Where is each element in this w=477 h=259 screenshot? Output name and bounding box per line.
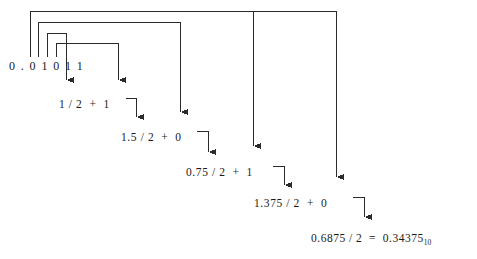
- binary-input-value: 0 . 0 1 0 1 1: [9, 60, 84, 73]
- final-result-radix-subscript: 10: [424, 238, 432, 247]
- connector-digit1-to-step4: [31, 12, 337, 178]
- elbow-step1-to-step2: [126, 98, 137, 117]
- elbow-step2-to-step3: [197, 131, 209, 152]
- elbow-step3-to-step4: [273, 166, 285, 185]
- connector-wire-layer: [0, 0, 477, 259]
- connector-digit2-to-step3: [31, 12, 254, 147]
- step-3-expression: 0.75 / 2 + 1: [186, 166, 253, 179]
- final-result-expression: 0.6875 / 2 = 0.3437510: [311, 232, 431, 249]
- binary-conversion-diagram: 0 . 0 1 0 1 1 1 / 2 + 1 1.5 / 2 + 0 0.75…: [0, 0, 477, 259]
- step-1-expression: 1 / 2 + 1: [59, 98, 110, 111]
- step-2-expression: 1.5 / 2 + 0: [121, 131, 182, 144]
- elbow-step4-to-result: [353, 197, 365, 217]
- step-4-expression: 1.375 / 2 + 0: [254, 197, 327, 210]
- final-result-value: 0.6875 / 2 = 0.34375: [311, 232, 424, 244]
